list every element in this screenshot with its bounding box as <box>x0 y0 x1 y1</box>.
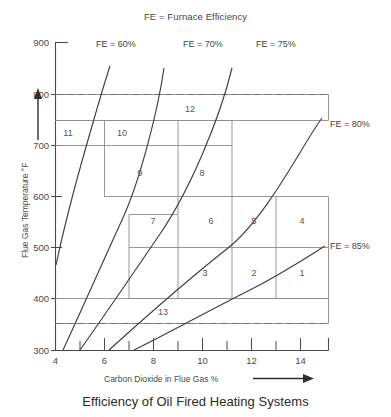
x-tick-label-14: 14 <box>295 355 306 366</box>
y-axis-title-group: Flue Gas Temperature °F <box>20 88 42 258</box>
fe-curve-70 <box>63 68 164 350</box>
region-label-9: 9 <box>137 168 142 178</box>
region-label-13: 13 <box>158 307 168 317</box>
fe-curve-85 <box>134 246 325 350</box>
y-axis-group: 900 800 700 600 500 400 300 <box>33 37 68 356</box>
region-label-11: 11 <box>63 128 72 138</box>
region-label-10: 10 <box>117 128 127 138</box>
y-tick-label-300: 300 <box>33 345 49 356</box>
fe-label-60: FE = 60% <box>96 39 136 49</box>
x-axis-title: Carbon Dioxide in Flue Gas % <box>104 374 219 384</box>
y-tick-label-400: 400 <box>33 293 49 304</box>
region-label-2: 2 <box>251 268 256 278</box>
region-numbers-group: 11 10 12 9 8 7 6 5 4 3 2 1 13 <box>63 104 304 317</box>
region-label-7: 7 <box>150 216 155 226</box>
y-tick-label-600: 600 <box>33 191 49 202</box>
page-title: Efficiency of Oil Fired Heating Systems <box>0 394 391 409</box>
x-tick-label-12: 12 <box>246 355 257 366</box>
region-label-4: 4 <box>299 216 304 226</box>
fe-label-85: FE = 85% <box>330 241 370 251</box>
y-tick-label-900: 900 <box>33 37 49 48</box>
x-axis-title-group: Carbon Dioxide in Flue Gas % <box>104 374 314 384</box>
region-label-3: 3 <box>202 268 207 278</box>
region-grid-group <box>56 95 329 324</box>
fe-label-75: FE = 75% <box>256 39 296 49</box>
x-tick-label-10: 10 <box>197 355 208 366</box>
x-tick-label-8: 8 <box>151 355 156 366</box>
chart-container: FE = Furnace Efficiency 900 800 700 600 … <box>0 0 391 417</box>
fe-label-80: FE = 80% <box>330 119 370 129</box>
y-tick-label-700: 700 <box>33 140 49 151</box>
x-axis-group: 4 6 8 10 12 14 <box>53 338 329 366</box>
region-label-12: 12 <box>185 104 195 114</box>
region-label-5: 5 <box>251 216 256 226</box>
efficiency-plot-svg: 900 800 700 600 500 400 300 4 6 8 <box>0 0 391 417</box>
x-tick-label-6: 6 <box>102 355 107 366</box>
y-axis-title: Flue Gas Temperature °F <box>20 163 30 258</box>
region-label-1: 1 <box>299 268 304 278</box>
reference-lines-group <box>56 95 327 324</box>
region-label-8: 8 <box>199 168 204 178</box>
fe-curve-60 <box>56 66 110 265</box>
x-tick-label-4: 4 <box>53 355 58 366</box>
fe-label-70: FE = 70% <box>183 39 223 49</box>
y-tick-label-500: 500 <box>33 242 49 253</box>
fe-curve-80 <box>109 118 322 350</box>
region-label-6: 6 <box>208 216 213 226</box>
x-axis-arrow-head <box>303 374 314 383</box>
